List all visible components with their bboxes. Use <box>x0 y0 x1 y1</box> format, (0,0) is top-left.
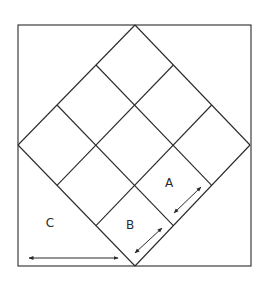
grid-line-ne-sw <box>57 65 173 185</box>
arrow-a-double-arrow <box>174 187 201 213</box>
diamond-grid-diagram <box>0 0 266 284</box>
label-a: A <box>165 177 173 189</box>
label-b: B <box>126 219 134 231</box>
grid-line-ne-sw <box>96 105 212 226</box>
arrow-b-double-arrow <box>135 228 162 253</box>
grid-line-nw-se <box>18 145 135 266</box>
grid-line-ne-sw <box>135 145 250 266</box>
grid-line-nw-se <box>96 65 212 185</box>
grid-line-ne-sw <box>18 25 135 145</box>
diagram-canvas: A B C <box>0 0 266 284</box>
label-c: C <box>46 217 54 229</box>
grid-line-nw-se <box>135 25 250 145</box>
dimension-arrows <box>29 187 201 258</box>
grid-line-nw-se <box>57 105 173 226</box>
